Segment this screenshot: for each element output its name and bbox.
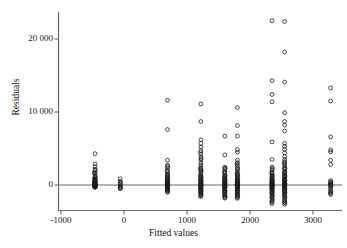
data-point — [166, 158, 170, 162]
y-axis-title: Residuals — [11, 57, 21, 137]
x-axis-ticks — [61, 211, 313, 215]
data-point — [236, 124, 240, 128]
residuals-scatter-figure: 010 00020 000 -10000100020003000 Fitted … — [0, 0, 347, 248]
data-point — [93, 152, 97, 156]
data-point — [270, 100, 274, 104]
data-point — [283, 129, 287, 133]
x-tick-label: 0 — [94, 215, 154, 225]
data-point — [283, 20, 287, 24]
data-point — [283, 50, 287, 54]
x-tick-label: 1000 — [157, 215, 217, 225]
data-point — [166, 128, 170, 132]
x-tick-label: 2000 — [220, 215, 280, 225]
data-point — [199, 102, 203, 106]
data-point — [270, 19, 274, 23]
data-point — [329, 99, 333, 103]
data-point — [270, 158, 274, 162]
data-point — [236, 106, 240, 110]
data-point — [329, 163, 333, 167]
x-axis-title: Fitted values — [0, 228, 347, 238]
data-point — [283, 120, 287, 124]
data-point — [166, 98, 170, 102]
y-tick-label: 20 000 — [28, 33, 53, 43]
data-point — [236, 150, 240, 154]
data-point — [329, 86, 333, 90]
x-tick-label: -1000 — [31, 215, 91, 225]
data-point — [223, 153, 227, 157]
data-point — [270, 140, 274, 144]
data-point — [283, 151, 287, 155]
x-tick-label: 3000 — [283, 215, 343, 225]
data-point — [283, 80, 287, 84]
y-tick-label: 10 000 — [28, 106, 53, 116]
data-point — [283, 123, 287, 127]
data-point — [270, 79, 274, 83]
data-point — [199, 138, 203, 142]
data-point-group — [92, 19, 332, 206]
data-point — [329, 135, 333, 139]
data-point — [270, 93, 274, 97]
data-point — [283, 111, 287, 115]
data-point — [199, 141, 203, 145]
data-point — [236, 134, 240, 138]
data-point — [329, 158, 333, 162]
y-tick-label: 0 — [49, 179, 54, 189]
data-point — [223, 134, 227, 138]
data-point — [199, 120, 203, 124]
data-point — [199, 145, 203, 149]
